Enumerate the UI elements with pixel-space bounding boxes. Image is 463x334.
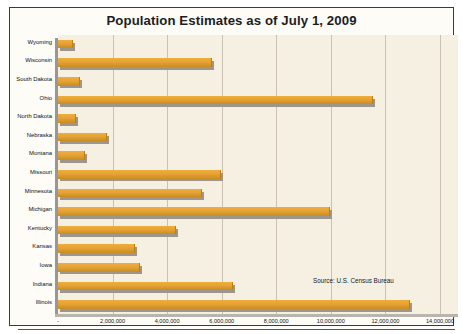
bar-body (58, 40, 73, 49)
category-label: Minnesota (0, 188, 52, 194)
x-axis-rule (18, 329, 455, 330)
category-label: Wyoming (0, 39, 52, 45)
category-label: Nebraska (0, 132, 52, 138)
bar-body (58, 58, 212, 67)
gridline (276, 35, 277, 314)
x-tick-label: 14,000,000 (410, 318, 463, 324)
y-axis-wall (55, 38, 58, 317)
source-annotation: Source: U.S. Census Bureau (313, 277, 394, 284)
bar[interactable] (58, 77, 83, 96)
category-label: South Dakota (0, 76, 52, 82)
bar-body (58, 96, 373, 105)
category-label: Illinois (0, 299, 52, 305)
x-axis-line (55, 314, 458, 317)
bar[interactable] (58, 282, 236, 301)
x-tick-label: 6,000,000 (192, 318, 252, 324)
gridline (331, 35, 332, 314)
bar[interactable] (58, 226, 179, 245)
bar[interactable] (58, 151, 88, 170)
bar[interactable] (58, 133, 110, 152)
bar[interactable] (58, 189, 205, 208)
category-label: Missouri (0, 169, 52, 175)
bar-body (58, 207, 330, 216)
bar-body (58, 133, 107, 142)
bar-body (58, 226, 176, 235)
chart-title: Population Estimates as of July 1, 2009 (9, 13, 454, 28)
bar-body (58, 300, 410, 309)
bar[interactable] (58, 300, 413, 314)
bar-body (58, 189, 202, 198)
x-tick-label: 2,000,000 (83, 318, 143, 324)
category-label: Indiana (0, 281, 52, 287)
bar-body (58, 282, 233, 291)
bar[interactable] (58, 170, 224, 189)
bar[interactable] (58, 114, 79, 133)
x-tick-label: 10,000,000 (301, 318, 361, 324)
category-label: Ohio (0, 95, 52, 101)
x-tick-label: - (28, 318, 88, 324)
gridline (385, 35, 386, 314)
bar-body (58, 114, 76, 123)
category-label: Kansas (0, 243, 52, 249)
bar[interactable] (58, 40, 76, 59)
bar-body (58, 77, 80, 86)
gridline (440, 35, 441, 314)
x-tick-label: 12,000,000 (355, 318, 415, 324)
category-label: North Dakota (0, 113, 52, 119)
bar-body (58, 170, 221, 179)
category-label: Montana (0, 150, 52, 156)
chart-container: Population Estimates as of July 1, 2009 … (0, 0, 463, 334)
bar-body (58, 151, 85, 160)
category-label: Iowa (0, 262, 52, 268)
bar[interactable] (58, 58, 215, 77)
bar[interactable] (58, 207, 333, 226)
bar[interactable] (58, 263, 143, 282)
bar-body (58, 244, 135, 253)
bar[interactable] (58, 96, 376, 115)
x-tick-label: 4,000,000 (137, 318, 197, 324)
plot-area (58, 35, 458, 314)
bar[interactable] (58, 244, 138, 263)
bar-body (58, 263, 140, 272)
x-tick-label: 8,000,000 (246, 318, 306, 324)
category-label: Michigan (0, 206, 52, 212)
category-label: Kentucky (0, 225, 52, 231)
category-label: Wisconsin (0, 57, 52, 63)
